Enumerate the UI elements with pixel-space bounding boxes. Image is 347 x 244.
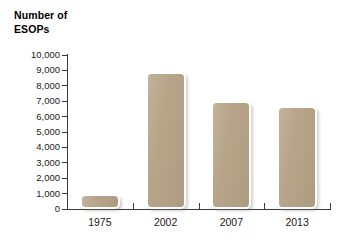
y-axis-tick-label: 7,000 xyxy=(8,96,60,106)
x-axis-tick-label: 2002 xyxy=(136,216,196,228)
y-axis-tick-label: 9,000 xyxy=(8,65,60,75)
x-axis-tick-label: 1975 xyxy=(70,216,130,228)
y-axis-tick-label: 1,000 xyxy=(8,189,60,199)
y-axis-tick xyxy=(62,178,68,179)
y-axis-tick-label: 8,000 xyxy=(8,81,60,91)
x-axis-tick xyxy=(330,203,331,210)
y-axis-tick-label: 2,000 xyxy=(8,173,60,183)
x-axis-tick xyxy=(133,203,134,210)
y-axis-tick xyxy=(62,193,68,194)
x-axis-tick-label: 2007 xyxy=(201,216,261,228)
x-axis-tick xyxy=(199,203,200,210)
bar xyxy=(80,194,120,209)
bar-fill xyxy=(148,74,184,207)
bar xyxy=(211,101,251,209)
y-axis-tick-label: 5,000 xyxy=(8,127,60,137)
y-axis-tick xyxy=(62,101,68,102)
y-axis-tick-label: 3,000 xyxy=(8,158,60,168)
bar xyxy=(277,106,317,209)
x-axis-tick-label: 2013 xyxy=(267,216,327,228)
bar xyxy=(146,72,186,209)
bar-chart: Number of ESOPs 10,0009,0008,0007,0006,0… xyxy=(0,0,347,244)
y-axis-tick-label: 10,000 xyxy=(8,50,60,60)
bar-fill xyxy=(279,108,315,207)
bar-fill xyxy=(82,196,118,207)
y-axis-tick xyxy=(62,55,68,56)
y-axis-tick xyxy=(62,85,68,86)
y-axis-tick-label: 6,000 xyxy=(8,112,60,122)
y-axis-tick-label: 0 xyxy=(8,204,60,214)
y-axis-tick xyxy=(62,162,68,163)
y-axis-tick xyxy=(62,132,68,133)
x-axis-tick xyxy=(264,203,265,210)
y-axis-tick xyxy=(62,147,68,148)
y-axis-tick xyxy=(62,116,68,117)
y-axis-tick-label: 4,000 xyxy=(8,142,60,152)
bar-fill xyxy=(213,103,249,207)
x-axis-tick xyxy=(67,203,68,210)
y-axis-labels: 10,0009,0008,0007,0006,0005,0004,0003,00… xyxy=(4,0,60,244)
y-axis-tick xyxy=(62,70,68,71)
